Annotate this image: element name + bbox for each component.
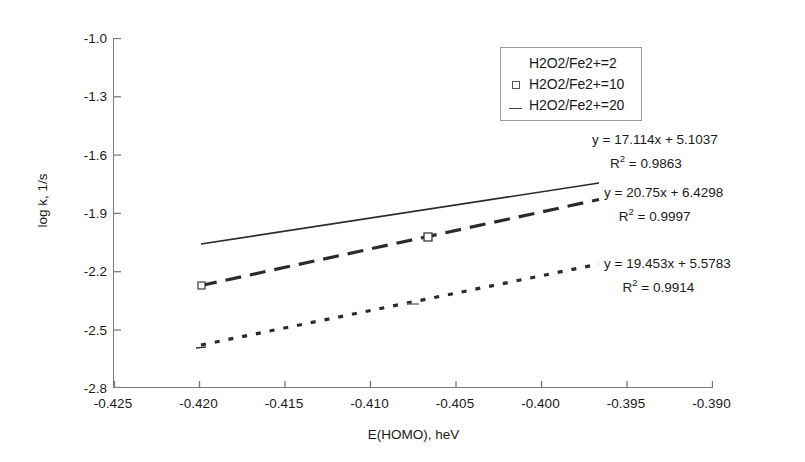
annotation-r2: R2 = 0.9863: [592, 149, 718, 173]
y-tick-labels: -1.0 -1.3 -1.6 -1.9 -2.2 -2.5 -2.8: [0, 0, 805, 462]
r2-symbol: R: [619, 209, 629, 224]
r2-value: = 0.9997: [634, 209, 691, 224]
r2-symbol: R: [610, 156, 620, 171]
annotation-equation-text: y = 20.75x + 6.4298: [604, 183, 723, 202]
x-axis-title: E(HOMO), heV: [0, 427, 805, 442]
y-tick-label: -1.3: [43, 89, 107, 104]
legend-label: H2O2/Fe2+=2: [529, 55, 617, 71]
x-tick-label: -0.415: [244, 396, 324, 411]
y-tick-label: -2.5: [43, 322, 107, 337]
annotation-equation-2: y = 20.75x + 6.4298 R2 = 0.9997: [604, 183, 723, 226]
r2-symbol: R: [623, 280, 633, 295]
x-tick-label: -0.410: [330, 396, 410, 411]
y-axis-title: log k, 1/s: [35, 141, 50, 261]
legend: H2O2/Fe2+=2 H2O2/Fe2+=10 H2O2/Fe2+=20: [500, 47, 642, 121]
annotation-r2: R2 = 0.9997: [604, 202, 723, 226]
x-axis-title-text: E(HOMO), heV: [368, 427, 460, 442]
annotation-equation-text: y = 19.453x + 5.5783: [604, 254, 731, 273]
x-tick-label: -0.425: [73, 396, 153, 411]
legend-item-h2o2-fe2-20: H2O2/Fe2+=20: [503, 94, 639, 115]
x-tick-label: -0.390: [672, 396, 752, 411]
r2-value: = 0.9914: [638, 280, 695, 295]
y-tick-label: -1.6: [43, 147, 107, 162]
y-tick-label: -2.8: [43, 380, 107, 395]
x-tick-label: -0.405: [415, 396, 495, 411]
legend-key-dash-icon: [507, 99, 527, 111]
legend-label: H2O2/Fe2+=20: [529, 97, 624, 113]
annotation-equation-1: y = 17.114x + 5.1037 R2 = 0.9863: [592, 130, 718, 173]
x-tick-label: -0.420: [159, 396, 239, 411]
legend-key-icon-none: [507, 57, 527, 69]
legend-item-h2o2-fe2-10: H2O2/Fe2+=10: [503, 73, 639, 94]
annotation-equation-3: y = 19.453x + 5.5783 R2 = 0.9914: [604, 254, 731, 297]
r2-value: = 0.9863: [625, 156, 682, 171]
annotation-r2: R2 = 0.9914: [604, 273, 731, 297]
x-tick-label: -0.395: [586, 396, 666, 411]
chart-figure: -1.0 -1.3 -1.6 -1.9 -2.2 -2.5 -2.8 -0.42…: [0, 0, 805, 462]
y-tick-label: -1.0: [43, 31, 107, 46]
x-tick-label: -0.400: [501, 396, 581, 411]
y-tick-label: -1.9: [43, 205, 107, 220]
legend-key-square-icon: [507, 78, 527, 90]
y-tick-label: -2.2: [43, 264, 107, 279]
annotation-equation-text: y = 17.114x + 5.1037: [592, 130, 718, 149]
legend-item-h2o2-fe2-2: H2O2/Fe2+=2: [503, 52, 639, 73]
legend-label: H2O2/Fe2+=10: [529, 76, 624, 92]
